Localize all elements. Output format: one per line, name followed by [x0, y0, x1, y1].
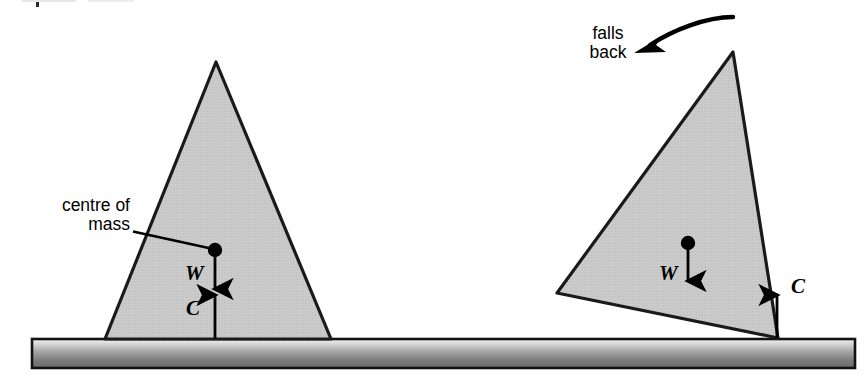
- right-block-group: [557, 52, 778, 338]
- left-block-group: [105, 62, 331, 339]
- weight-label-left: W: [185, 262, 204, 284]
- falls-back-curved-arrow-icon: [634, 17, 733, 53]
- contact-label-left: C: [186, 297, 200, 319]
- scan-edge-artifact: [22, 0, 134, 7]
- centre-of-mass-label-line1: centre of: [62, 195, 130, 215]
- falls-back-label-line2: back: [590, 42, 627, 62]
- centre-of-mass-label-line2: mass: [88, 214, 130, 234]
- ground-bar: [32, 339, 855, 368]
- tilted-triangle-block: [557, 52, 778, 338]
- falls-back-label-line1: falls: [592, 23, 623, 43]
- centre-of-mass-label: centre ofmass: [18, 196, 130, 233]
- upright-triangle-block: [105, 62, 331, 339]
- weight-label-right: W: [659, 262, 678, 284]
- contact-label-right: C: [791, 275, 805, 297]
- falls-back-label: fallsback: [576, 24, 640, 61]
- figure-canvas: centre ofmass fallsback W C W C: [0, 0, 867, 392]
- physics-diagram: [0, 0, 867, 392]
